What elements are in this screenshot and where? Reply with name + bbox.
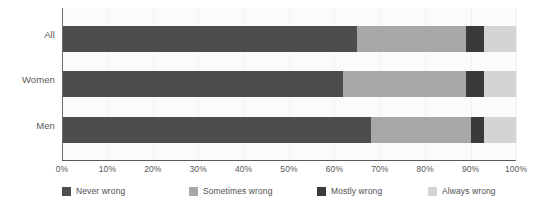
- legend-item-mostly-wrong: Mostly wrong: [317, 184, 382, 198]
- bar-segment: [484, 71, 516, 97]
- y-axis-label-men: Men: [0, 120, 55, 131]
- x-axis-tick-label: 30%: [190, 164, 207, 174]
- x-axis-tick-label: 40%: [235, 164, 252, 174]
- y-axis-label-all: All: [0, 29, 55, 40]
- legend-swatch-icon: [189, 187, 198, 196]
- bar-segment: [62, 71, 343, 97]
- bar-row: [62, 26, 516, 52]
- legend-item-sometimes-wrong: Sometimes wrong: [189, 184, 273, 198]
- bar-segment: [357, 26, 466, 52]
- x-axis-tick-label: 50%: [280, 164, 297, 174]
- stacked-bar-chart: All Women Men 0%10%20%30%40%50%60%70%80%…: [0, 0, 544, 209]
- x-axis-tick-label: 20%: [144, 164, 161, 174]
- x-axis-tick-label: 80%: [417, 164, 434, 174]
- x-axis-line: [62, 160, 516, 161]
- bar-segment: [466, 26, 484, 52]
- bar-segment: [343, 71, 466, 97]
- plot-area: [62, 8, 516, 160]
- legend-label: Always wrong: [442, 186, 496, 196]
- legend-item-always-wrong: Always wrong: [428, 184, 496, 198]
- bar-row: [62, 71, 516, 97]
- bar-segment: [471, 117, 485, 143]
- x-axis-tick-label: 10%: [99, 164, 116, 174]
- x-axis-tick-label: 60%: [326, 164, 343, 174]
- x-axis-tick-label: 100%: [505, 164, 527, 174]
- x-axis-tick-label: 0%: [56, 164, 69, 174]
- bar-segment: [371, 117, 471, 143]
- legend-item-never-wrong: Never wrong: [62, 184, 125, 198]
- legend-label: Mostly wrong: [331, 186, 382, 196]
- bar-segment: [62, 117, 371, 143]
- bar-segment: [484, 26, 516, 52]
- legend-swatch-icon: [317, 187, 326, 196]
- bar-segment: [466, 71, 484, 97]
- x-axis-tick-label: 90%: [462, 164, 479, 174]
- y-axis-label-women: Women: [0, 74, 55, 85]
- bar-segment: [484, 117, 516, 143]
- legend-swatch-icon: [62, 187, 71, 196]
- gridline: [516, 8, 517, 160]
- bar-segment: [62, 26, 357, 52]
- bar-row: [62, 117, 516, 143]
- chart-legend: Never wrong Sometimes wrong Mostly wrong…: [62, 184, 532, 200]
- x-axis-tick-label: 70%: [371, 164, 388, 174]
- legend-label: Sometimes wrong: [203, 186, 273, 196]
- legend-swatch-icon: [428, 187, 437, 196]
- y-axis-line: [62, 8, 63, 160]
- legend-label: Never wrong: [76, 186, 125, 196]
